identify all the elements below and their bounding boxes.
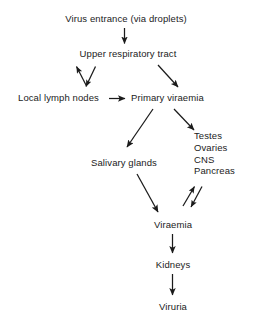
node-organ-targets: Testes Ovaries CNS Pancreas bbox=[194, 130, 235, 177]
arrow-upper-respiratory-tract-to-lymph-nodes bbox=[86, 67, 96, 87]
arrow-primary-viraemia-to-organ-targets bbox=[174, 109, 194, 130]
arrow-viraemia-to-organ-targets bbox=[183, 187, 195, 207]
arrow-upper-respiratory-tract-to-primary-viraemia bbox=[158, 65, 178, 87]
node-upper-respiratory-tract: Upper respiratory tract bbox=[80, 48, 177, 60]
node-primary-viraemia: Primary viraemia bbox=[131, 92, 204, 104]
organ-target-pancreas: Pancreas bbox=[194, 165, 235, 177]
organ-target-testes: Testes bbox=[194, 130, 235, 142]
organ-target-ovaries: Ovaries bbox=[194, 142, 235, 154]
node-local-lymph-nodes: Local lymph nodes bbox=[18, 92, 99, 104]
node-kidneys: Kidneys bbox=[156, 259, 191, 271]
arrow-organ-targets-to-viraemia bbox=[191, 187, 202, 208]
node-viraemia: Viraemia bbox=[154, 219, 192, 231]
arrow-primary-viraemia-to-salivary-glands bbox=[127, 109, 153, 147]
node-viruria: Viruria bbox=[159, 301, 187, 313]
arrow-lymph-nodes-to-upper-respiratory-tract bbox=[77, 67, 87, 87]
arrow-salivary-glands-to-viraemia bbox=[137, 174, 158, 212]
pathogenesis-flowchart: Virus entrance (via droplets) Upper resp… bbox=[0, 0, 254, 323]
organ-target-cns: CNS bbox=[194, 154, 235, 166]
node-virus-entrance: Virus entrance (via droplets) bbox=[65, 13, 187, 25]
node-salivary-glands: Salivary glands bbox=[91, 157, 157, 169]
